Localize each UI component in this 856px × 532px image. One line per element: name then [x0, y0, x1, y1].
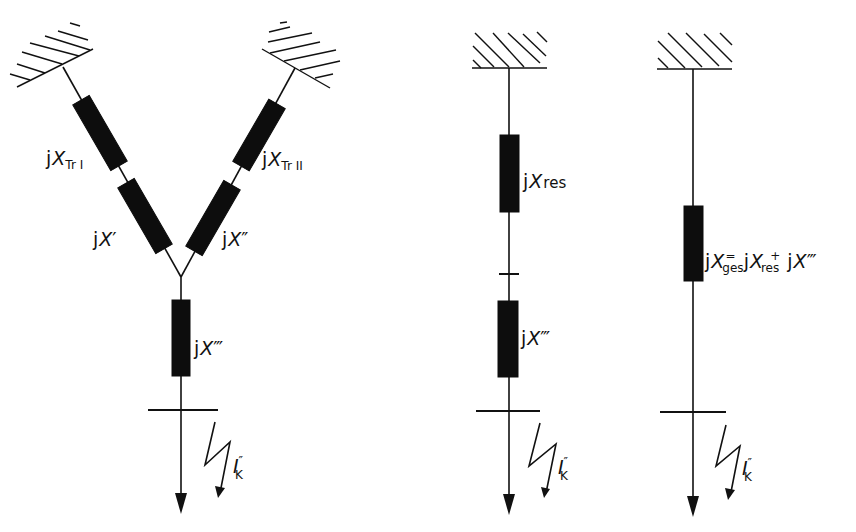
- ground-symbol-right-panel: [657, 33, 732, 69]
- label-XTrII: jXTr II: [261, 148, 303, 173]
- label-X-prime: jX′: [92, 228, 117, 250]
- label-fault-current: I″K: [233, 454, 244, 482]
- label-X-triple-prime: jX‴: [193, 337, 223, 359]
- arrow-down-icon: [687, 496, 699, 517]
- ground-symbol-middle: [472, 32, 547, 68]
- reactance-Xges: [684, 206, 703, 281]
- panel-parallel-transformers: jXTr I jXTr II jX′ jX″ jX‴ I″K: [10, 22, 340, 514]
- circuit-diagram: jXTr I jXTr II jX′ jX″ jX‴ I″K: [0, 0, 856, 532]
- label-XTrI: jXTr I: [45, 147, 83, 172]
- label-Xges-equation: jXges=jXres+jX‴: [704, 249, 817, 275]
- fault-lightning-icon: [529, 423, 556, 498]
- fault-lightning-icon: [716, 425, 740, 500]
- panel-series-equivalent: jXres jX‴ I″K: [472, 32, 569, 515]
- label-X-double-prime: jX″: [221, 228, 248, 250]
- label-fault-current-middle: I″K: [558, 455, 569, 483]
- arrow-down-icon: [503, 494, 515, 515]
- label-fault-current-right: I″K: [742, 456, 753, 484]
- reactance-X-triple-prime-middle: [498, 301, 518, 377]
- ground-symbol-left: [10, 23, 93, 87]
- label-Xres: jXres: [522, 170, 566, 192]
- reactance-X-triple-prime: [172, 300, 190, 376]
- reactance-X-prime: [118, 178, 172, 253]
- label-X-triple-prime-middle: jX‴: [520, 327, 550, 349]
- reactance-Xres: [500, 135, 519, 212]
- ground-symbol-right: [262, 22, 340, 88]
- panel-total-equivalent: jXges=jXres+jX‴ I″K: [657, 33, 817, 517]
- arrow-down-icon: [175, 493, 187, 514]
- fault-lightning-icon: [205, 422, 230, 498]
